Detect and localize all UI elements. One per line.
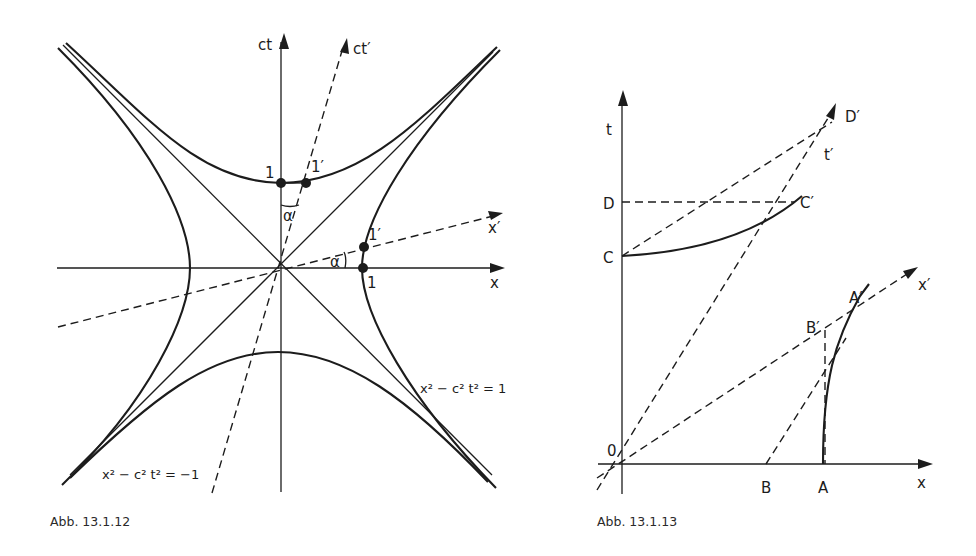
caption-left: Abb. 13.1.12 [50,514,130,529]
label-A-prime: A′ [849,289,863,307]
t-axis-arrowhead-icon [618,90,628,106]
label-x: x [490,274,499,292]
label-x-right: x [917,474,926,492]
line-C-D-prime [622,122,832,256]
curve-A-A-prime [823,284,869,464]
lorentz-diagram: t t′ x x′ 0 B A C D C′ D′ A′ B′ Abb. 13.… [597,90,933,529]
hyperbola-left [58,48,190,485]
x-axis-arrowhead-icon [490,263,505,273]
figure-canvas: ct ct′ x x′ 1 1′ 1 1′ α α x² − c² t² = 1… [0,0,976,556]
hyperbola-right [362,50,500,488]
label-x-prime: x′ [488,219,501,237]
t-prime-axis-arrowhead-icon [826,103,836,120]
hyperbola-bottom [70,352,488,482]
label-origin: 0 [607,442,617,460]
x-prime-axis [58,215,497,327]
label-t-prime: t′ [824,146,834,164]
label-t: t [606,121,612,139]
label-B: B [761,479,771,497]
label-C-prime: C′ [800,194,814,212]
label-A: A [818,479,829,497]
equation-spacelike: x² − c² t² = −1 [102,467,199,482]
caption-right: Abb. 13.1.13 [597,514,677,529]
label-1-prime-x: 1′ [368,226,382,244]
t-prime-axis [597,110,833,490]
x-axis-right-arrowhead-icon [918,459,933,469]
x-prime-axis-right-arrowhead-icon [903,267,918,279]
label-1-prime-ct: 1′ [311,158,325,176]
ct-prime-axis-arrowhead-icon [340,38,349,54]
label-alpha-top: α [283,207,293,225]
label-ct: ct [258,36,272,54]
label-1-x: 1 [367,274,377,292]
angle-arc-right [344,252,346,268]
label-x-prime-right: x′ [918,276,931,294]
label-C: C [603,249,613,267]
minkowski-diagram: ct ct′ x x′ 1 1′ 1 1′ α α x² − c² t² = 1… [50,33,506,529]
label-ct-prime: ct′ [353,40,371,58]
label-B-prime: B′ [806,319,820,337]
label-D: D [603,195,615,213]
label-D-prime: D′ [845,108,861,126]
label-alpha-right: α [330,253,340,271]
ct-axis-arrowhead-icon [279,33,289,49]
x-prime-axis-right [597,272,910,478]
point-1-x [358,263,368,273]
label-1-ct: 1 [265,164,275,182]
equation-timelike: x² − c² t² = 1 [420,381,506,396]
curve-C-C-prime [622,196,802,256]
